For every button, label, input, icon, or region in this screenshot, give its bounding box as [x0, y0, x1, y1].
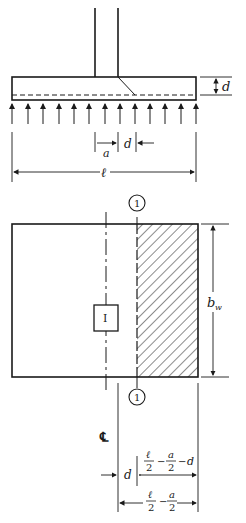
plan-view: [12, 195, 229, 512]
column-marker-label: I: [103, 312, 107, 325]
svg-text:2: 2: [168, 462, 174, 473]
footing-diagram: d a d ℓ 1 1 I b w ℄ d: [0, 0, 246, 523]
svg-text:2: 2: [169, 502, 175, 513]
dim2-formula: ℓ 2 − a 2: [146, 489, 177, 513]
elevation-view: [12, 8, 232, 182]
dim1-formula: ℓ 2 − a 2 − d: [144, 449, 194, 473]
centerline-label: ℄: [99, 429, 109, 444]
svg-text:2: 2: [148, 502, 154, 513]
length-label: ℓ: [101, 165, 107, 180]
section-marker-bottom-label: 1: [134, 392, 140, 403]
hatched-region: [137, 224, 198, 377]
d-label-elevation: d: [124, 137, 132, 151]
shear-crack-line: [118, 77, 135, 95]
soil-pressure-arrows: [12, 104, 196, 124]
svg-text:d: d: [187, 455, 194, 468]
svg-text:a: a: [169, 489, 175, 500]
svg-text:−: −: [178, 456, 186, 467]
svg-text:a: a: [168, 449, 174, 460]
svg-text:2: 2: [146, 462, 152, 473]
section-marker-top-label: 1: [134, 198, 140, 209]
depth-label: d: [222, 79, 230, 94]
a-label: a: [103, 147, 110, 160]
footing-slab: [12, 77, 196, 100]
d-label-plan: d: [124, 468, 132, 482]
svg-text:−: −: [159, 496, 167, 507]
svg-text:ℓ: ℓ: [146, 449, 150, 460]
bw-subscript: w: [215, 303, 222, 312]
svg-text:ℓ: ℓ: [148, 489, 152, 500]
svg-text:−: −: [157, 456, 165, 467]
